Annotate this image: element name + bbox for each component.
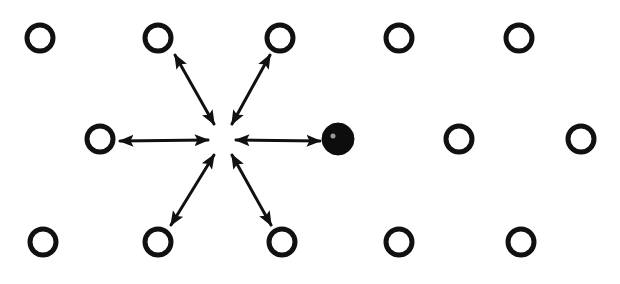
host-atom	[568, 126, 594, 152]
host-atom	[386, 25, 412, 51]
host-atom	[87, 126, 113, 152]
jump-arrow	[232, 155, 271, 225]
jump-arrow	[120, 140, 208, 141]
host-atom	[269, 229, 295, 255]
solute-atom	[322, 123, 354, 155]
host-atom	[30, 229, 56, 255]
host-atom	[446, 126, 472, 152]
jump-arrow	[232, 55, 270, 124]
jump-arrow	[171, 155, 214, 225]
jump-arrow	[236, 140, 320, 141]
host-atom	[508, 229, 534, 255]
host-atom	[145, 229, 171, 255]
host-atom	[27, 25, 53, 51]
host-atom	[386, 229, 412, 255]
host-atom	[267, 25, 293, 51]
jump-arrow	[175, 55, 214, 124]
lattice-diagram	[0, 0, 620, 284]
arrows-layer	[120, 55, 320, 225]
host-atom	[506, 25, 532, 51]
solute-atom-highlight	[331, 134, 336, 139]
host-atom	[145, 25, 171, 51]
